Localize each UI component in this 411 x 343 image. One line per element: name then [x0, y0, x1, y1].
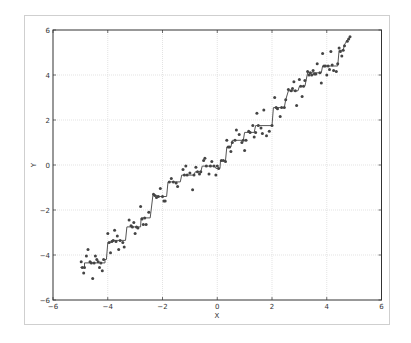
data-point — [209, 165, 212, 168]
data-point — [80, 260, 83, 263]
data-point — [123, 246, 126, 249]
data-point — [102, 258, 105, 261]
data-point — [314, 72, 317, 75]
x-tick-label: 2 — [270, 303, 274, 311]
data-point — [194, 166, 197, 169]
data-point — [280, 106, 283, 109]
data-point — [128, 219, 131, 222]
axis-ticks: −6−4−20246−6−4−20246 — [40, 27, 385, 312]
data-point — [109, 251, 112, 254]
data-point — [205, 165, 208, 168]
data-point — [199, 170, 202, 173]
data-point — [283, 106, 286, 109]
data-point — [131, 225, 134, 228]
data-point — [292, 80, 295, 83]
data-point — [287, 88, 290, 91]
data-point — [136, 227, 139, 230]
data-point — [294, 89, 297, 92]
data-point — [175, 182, 178, 185]
data-point — [98, 266, 101, 269]
y-tick-label: 0 — [46, 162, 50, 170]
y-tick-label: −6 — [40, 297, 51, 305]
data-point — [87, 248, 90, 251]
data-point — [90, 261, 93, 264]
data-point — [320, 81, 323, 84]
data-point — [214, 174, 217, 177]
data-point — [94, 255, 97, 258]
data-point — [108, 241, 111, 244]
data-point — [117, 248, 120, 251]
data-point — [106, 232, 109, 235]
data-point — [331, 63, 334, 66]
data-point — [329, 50, 332, 53]
data-point — [265, 134, 268, 137]
data-point — [116, 234, 119, 237]
data-point — [284, 98, 287, 101]
data-point — [306, 70, 309, 73]
data-point — [342, 49, 345, 52]
data-point — [191, 188, 194, 191]
data-point — [193, 174, 196, 177]
y-tick-label: −2 — [40, 207, 50, 215]
data-point — [343, 44, 346, 47]
data-point — [170, 177, 173, 180]
data-point — [242, 139, 245, 142]
data-point — [121, 241, 124, 244]
data-point — [235, 129, 238, 132]
data-point — [243, 149, 246, 152]
data-point — [217, 167, 220, 170]
data-point — [298, 78, 301, 81]
data-point — [168, 180, 171, 183]
chart: −6−4−20246−6−4−20246 X Y — [0, 0, 411, 343]
data-point — [139, 205, 142, 208]
data-point — [183, 174, 186, 177]
data-point — [112, 239, 115, 242]
data-point — [327, 65, 330, 68]
data-point — [208, 173, 211, 176]
data-point — [253, 135, 256, 138]
data-point — [321, 52, 324, 55]
data-point — [291, 87, 294, 90]
data-point — [164, 200, 167, 203]
x-axis-label: X — [215, 312, 220, 320]
data-point — [324, 65, 327, 68]
data-point — [338, 47, 341, 50]
data-point — [225, 139, 228, 142]
data-point — [312, 69, 315, 72]
data-point — [295, 104, 298, 107]
x-tick-label: −2 — [157, 303, 167, 311]
data-point — [134, 232, 137, 235]
data-point — [213, 165, 216, 168]
data-point — [238, 133, 241, 136]
data-point — [143, 216, 146, 219]
data-point — [262, 108, 265, 111]
data-point — [188, 171, 191, 174]
scatter-series — [80, 35, 352, 280]
data-point — [91, 277, 94, 280]
data-point — [161, 195, 164, 198]
data-point — [303, 79, 306, 82]
data-point — [260, 126, 263, 129]
data-point — [273, 96, 276, 99]
data-point — [83, 266, 86, 269]
data-point — [271, 124, 274, 127]
data-point — [82, 272, 85, 275]
data-point — [132, 221, 135, 224]
data-point — [101, 269, 104, 272]
y-axis-label: Y — [30, 162, 38, 168]
data-point — [157, 195, 160, 198]
data-point — [340, 54, 343, 57]
data-point — [224, 160, 227, 163]
data-point — [332, 69, 335, 72]
data-point — [229, 150, 232, 153]
data-point — [276, 107, 279, 110]
data-point — [245, 139, 248, 142]
data-point — [93, 261, 96, 264]
data-point — [268, 130, 271, 133]
y-tick-label: 2 — [46, 117, 50, 125]
data-point — [279, 115, 282, 118]
data-point — [85, 255, 88, 258]
data-point — [336, 62, 339, 65]
data-point — [145, 223, 148, 226]
data-point — [261, 132, 264, 135]
